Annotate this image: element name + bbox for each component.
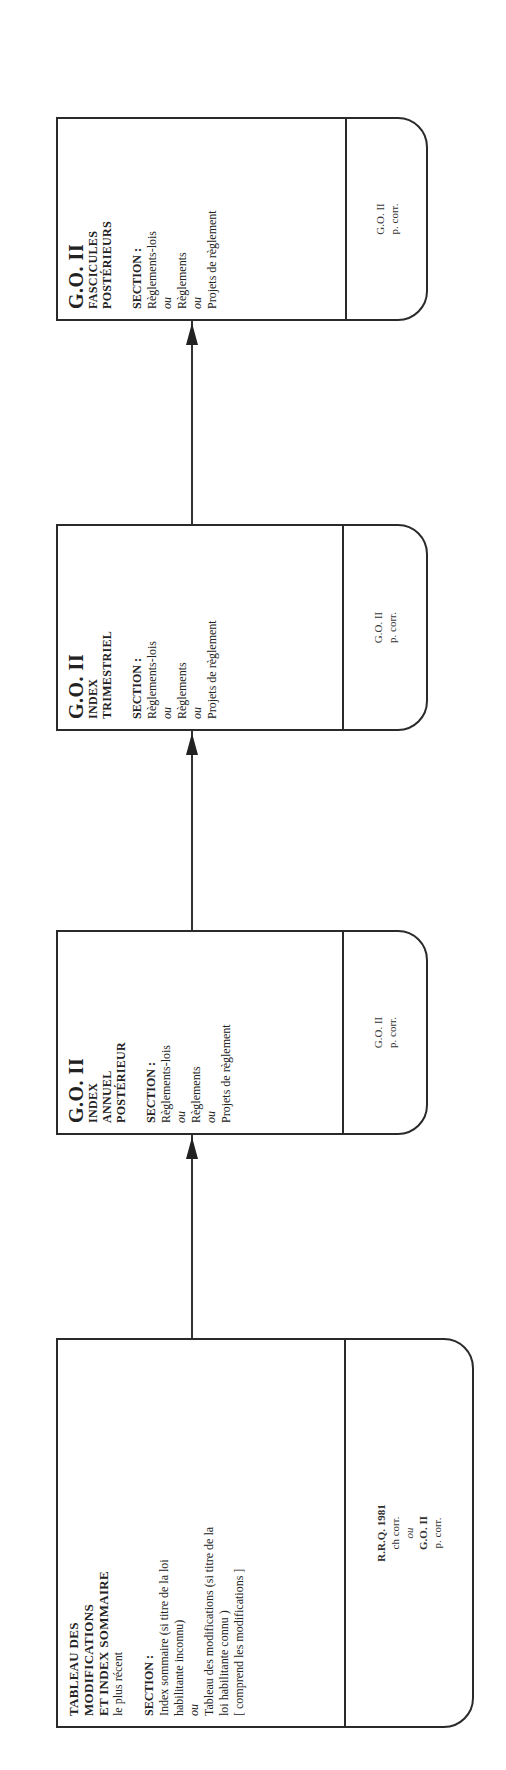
- tab-line: p. corr.: [385, 1017, 399, 1048]
- connector-line-2: [191, 731, 193, 930]
- box-tab: G.O. II p. corr.: [342, 930, 428, 1135]
- box-title: G.O. II: [66, 536, 86, 719]
- section-item-or: ou: [190, 536, 205, 719]
- section-item: Règlements-lois: [145, 536, 160, 719]
- section-item: Règlements: [175, 536, 190, 719]
- arrow-head-3: [186, 323, 198, 345]
- section-item: Index sommaire (si titre de la loi: [157, 1350, 172, 1716]
- section-item: Règlements-lois: [159, 942, 174, 1123]
- section-item-or: ou: [190, 129, 205, 309]
- section-item: Projets de règlement: [219, 942, 234, 1123]
- box-subtitle-line: ANNUEL: [100, 942, 114, 1123]
- box-title: G.O. II: [66, 942, 86, 1123]
- box-subtitle-line: INDEX: [86, 536, 100, 719]
- arrow-head-2: [186, 733, 198, 755]
- section-label: SECTION :: [144, 942, 159, 1123]
- section-item-or: ou: [204, 942, 219, 1123]
- section-item: Règlements-lois: [145, 129, 160, 309]
- section-item-or: ou: [187, 1350, 202, 1716]
- box-tab: G.O. II p. corr.: [342, 524, 428, 731]
- box-title-line: MODIFICATIONS: [81, 1350, 96, 1716]
- section-item: [ comprend les modifications ]: [232, 1350, 247, 1716]
- box-subtitle-line: FASCICULES: [86, 129, 100, 309]
- section-item: loi habilitante connu ): [217, 1350, 232, 1716]
- box-subtitle-line: POSTÉRIEURS: [100, 129, 114, 309]
- section-item: habilitante inconnu): [172, 1350, 187, 1716]
- box-subtitle-line: INDEX: [86, 942, 100, 1123]
- tab-line: G.O. II: [371, 612, 385, 643]
- box-title-line: TABLEAU DES: [66, 1350, 81, 1716]
- section-item: Projets de règlement: [205, 536, 220, 719]
- box-title: G.O. II: [66, 129, 86, 309]
- section-item-or: ou: [174, 942, 189, 1123]
- section-label: SECTION :: [130, 536, 145, 719]
- tab-line: R.R.Q. 1981: [374, 1504, 388, 1561]
- box-subtitle-line: POSTÉRIEUR: [114, 942, 128, 1123]
- tab-line: p. corr.: [387, 204, 401, 235]
- section-item: Règlements: [189, 942, 204, 1123]
- section-item: Tableau des modifications (si titre de l…: [202, 1350, 217, 1716]
- box-title-line: ET INDEX SOMMAIRE: [96, 1350, 111, 1716]
- connector-line-3: [191, 321, 193, 524]
- tab-line-or: ou: [402, 1528, 416, 1539]
- box-qualifier: le plus récent: [111, 1350, 126, 1716]
- tab-line: p. corr.: [385, 612, 399, 643]
- section-item: Règlements: [175, 129, 190, 309]
- tab-line: G.O. II: [416, 1516, 430, 1550]
- box-tab: G.O. II p. corr.: [345, 117, 428, 321]
- section-label: SECTION :: [142, 1350, 157, 1716]
- tab-line: p. corr.: [430, 1518, 444, 1549]
- section-item: Projets de règlement: [205, 129, 220, 309]
- section-item-or: ou: [160, 129, 175, 309]
- section-label: SECTION :: [130, 129, 145, 309]
- tab-line: ch corr.: [388, 1517, 402, 1550]
- section-item-or: ou: [160, 536, 175, 719]
- tab-line: G.O. II: [373, 203, 387, 234]
- box-tab: R.R.Q. 1981 ch corr. ou G.O. II p. corr.: [344, 1338, 474, 1728]
- box-subtitle-line: TRIMESTRIEL: [100, 536, 114, 719]
- connector-line-1: [191, 1135, 193, 1338]
- tab-line: G.O. II: [371, 1017, 385, 1048]
- arrow-head-1: [186, 1137, 198, 1159]
